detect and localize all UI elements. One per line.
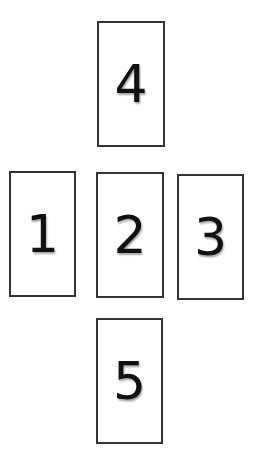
card-number: 1 [26,208,59,260]
card-number: 4 [114,58,147,110]
card-3: 3 [177,174,244,300]
card-number: 5 [113,355,146,407]
card-4: 4 [97,21,165,147]
card-number: 3 [194,211,227,263]
card-5: 5 [96,318,163,444]
card-number: 2 [113,209,146,261]
card-2: 2 [96,172,164,298]
card-1: 1 [9,171,76,297]
